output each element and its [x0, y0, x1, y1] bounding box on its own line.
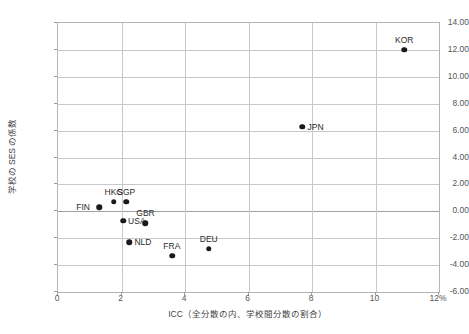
- x-tick-mark: [311, 292, 312, 295]
- data-point-label-fra: FRA: [163, 241, 180, 251]
- scatter-chart: 学校の SES の係数 FINHKGSGPUSAGBRNLDFRADEUJPNK…: [0, 0, 469, 334]
- y-tick-label: 0.00: [417, 205, 469, 215]
- x-tick-mark: [121, 292, 122, 295]
- y-tick-mark: [54, 237, 57, 238]
- gridline-vertical: [249, 23, 250, 292]
- y-tick-mark: [54, 130, 57, 131]
- y-tick-label: 8.00: [417, 98, 469, 108]
- x-tick-mark: [438, 292, 439, 295]
- y-tick-mark: [54, 157, 57, 158]
- plot-area: FINHKGSGPUSAGBRNLDFRADEUJPNKOR: [57, 22, 440, 293]
- y-tick-label: -4.00: [417, 259, 469, 269]
- gridline-vertical: [312, 23, 313, 292]
- data-point-label-kor: KOR: [395, 35, 413, 45]
- y-tick-label: 2.00: [417, 178, 469, 188]
- y-tick-mark: [54, 264, 57, 265]
- y-tick-label: 14.00: [417, 17, 469, 27]
- y-tick-label: 4.00: [417, 152, 469, 162]
- x-tick-mark: [248, 292, 249, 295]
- y-tick-label: 6.00: [417, 125, 469, 135]
- data-point-jpn: [300, 124, 306, 130]
- gridline-vertical: [185, 23, 186, 292]
- y-tick-mark: [54, 49, 57, 50]
- data-point-fra: [170, 253, 176, 259]
- data-point-kor: [401, 47, 407, 53]
- data-point-label-fin: FIN: [76, 202, 90, 212]
- data-point-label-sgp: SGP: [117, 187, 135, 197]
- data-point-hkg: [111, 199, 117, 205]
- x-tick-mark: [375, 292, 376, 295]
- y-tick-mark: [54, 103, 57, 104]
- data-point-fin: [97, 205, 103, 211]
- data-point-nld: [127, 239, 133, 245]
- x-axis-title: ICC（全分散の内、学校間分散の割合）: [57, 308, 438, 320]
- y-tick-mark: [54, 183, 57, 184]
- data-point-deu: [206, 246, 212, 252]
- data-point-sgp: [124, 199, 130, 205]
- data-point-usa: [120, 218, 126, 224]
- y-axis-title: 学校の SES の係数: [4, 22, 20, 291]
- data-point-label-deu: DEU: [200, 234, 218, 244]
- x-tick-mark: [57, 292, 58, 295]
- y-tick-label: 10.00: [417, 71, 469, 81]
- y-tick-label: -2.00: [417, 232, 469, 242]
- x-tick-mark: [184, 292, 185, 295]
- y-tick-label: 12.00: [417, 44, 469, 54]
- gridline-vertical: [122, 23, 123, 292]
- data-point-label-jpn: JPN: [307, 122, 323, 132]
- y-tick-mark: [54, 76, 57, 77]
- data-point-gbr: [143, 221, 149, 227]
- gridline-vertical: [376, 23, 377, 292]
- data-point-label-gbr: GBR: [136, 208, 154, 218]
- data-point-label-nld: NLD: [134, 237, 151, 247]
- y-tick-mark: [54, 210, 57, 211]
- y-tick-mark: [54, 22, 57, 23]
